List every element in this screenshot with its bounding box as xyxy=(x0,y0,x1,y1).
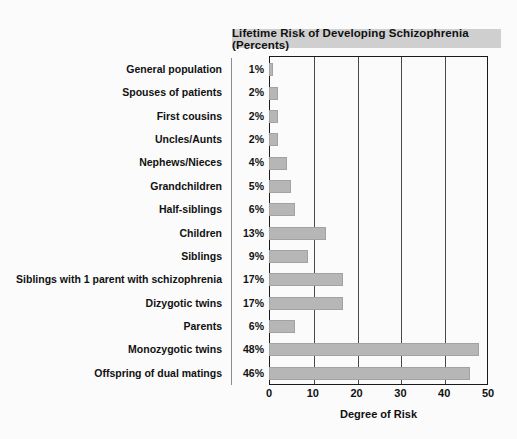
chart-row: General population1% xyxy=(0,58,517,81)
value-label: 17% xyxy=(232,268,264,291)
value-label: 2% xyxy=(232,128,264,151)
category-label: Offspring of dual matings xyxy=(0,362,222,385)
chart-title: Lifetime Risk of Developing Schizophreni… xyxy=(232,29,501,48)
category-label: Children xyxy=(0,222,222,245)
chart-row: Half-siblings6% xyxy=(0,198,517,221)
chart-row: Grandchildren5% xyxy=(0,175,517,198)
chart-row: Monozygotic twins48% xyxy=(0,338,517,361)
bar xyxy=(269,297,343,310)
chart-row: Nephews/Nieces4% xyxy=(0,151,517,174)
bar xyxy=(269,227,326,240)
chart-row: Uncles/Aunts2% xyxy=(0,128,517,151)
value-label: 46% xyxy=(232,362,264,385)
value-label: 6% xyxy=(232,315,264,338)
x-tick-0: 0 xyxy=(249,387,289,399)
chart-row: Offspring of dual matings46% xyxy=(0,362,517,385)
bar xyxy=(269,63,273,76)
value-label: 17% xyxy=(232,292,264,315)
value-label: 2% xyxy=(232,105,264,128)
chart-row: Spouses of patients2% xyxy=(0,81,517,104)
category-label: Half-siblings xyxy=(0,198,222,221)
value-label: 1% xyxy=(232,58,264,81)
x-axis-tick-labels: 01020304050 xyxy=(269,387,488,403)
value-label: 6% xyxy=(232,198,264,221)
value-label: 9% xyxy=(232,245,264,268)
x-tick-10: 10 xyxy=(293,387,333,399)
value-label: 5% xyxy=(232,175,264,198)
value-label: 4% xyxy=(232,151,264,174)
chart-rows: General population1%Spouses of patients2… xyxy=(0,58,517,385)
bar xyxy=(269,320,295,333)
category-label: Uncles/Aunts xyxy=(0,128,222,151)
category-label: First cousins xyxy=(0,105,222,128)
bar xyxy=(269,180,291,193)
bar xyxy=(269,157,287,170)
bar xyxy=(269,133,278,146)
schizophrenia-risk-bar-chart: Lifetime Risk of Developing Schizophreni… xyxy=(0,0,517,439)
bar xyxy=(269,273,343,286)
chart-row: Dizygotic twins17% xyxy=(0,292,517,315)
value-label: 13% xyxy=(232,222,264,245)
category-label: Siblings with 1 parent with schizophreni… xyxy=(0,268,222,291)
x-axis-title: Degree of Risk xyxy=(269,408,488,420)
x-tick-40: 40 xyxy=(424,387,464,399)
bar xyxy=(269,343,479,356)
category-label: Monozygotic twins xyxy=(0,338,222,361)
value-label: 2% xyxy=(232,81,264,104)
bar xyxy=(269,203,295,216)
bar xyxy=(269,87,278,100)
category-label: General population xyxy=(0,58,222,81)
bar xyxy=(269,367,470,380)
chart-row: First cousins2% xyxy=(0,105,517,128)
category-label: Dizygotic twins xyxy=(0,292,222,315)
category-label: Spouses of patients xyxy=(0,81,222,104)
bar xyxy=(269,110,278,123)
chart-row: Parents6% xyxy=(0,315,517,338)
x-tick-30: 30 xyxy=(380,387,420,399)
chart-row: Siblings9% xyxy=(0,245,517,268)
category-label: Parents xyxy=(0,315,222,338)
value-label: 48% xyxy=(232,338,264,361)
chart-row: Siblings with 1 parent with schizophreni… xyxy=(0,268,517,291)
category-label: Nephews/Nieces xyxy=(0,151,222,174)
x-tick-20: 20 xyxy=(337,387,377,399)
bar xyxy=(269,250,308,263)
chart-row: Children13% xyxy=(0,222,517,245)
category-label: Siblings xyxy=(0,245,222,268)
category-label: Grandchildren xyxy=(0,175,222,198)
x-tick-50: 50 xyxy=(468,387,508,399)
